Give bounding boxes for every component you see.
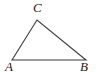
vertex-label-c: C: [33, 1, 42, 14]
vertex-label-b: B: [80, 60, 88, 73]
vertex-label-a: A: [5, 60, 13, 73]
triangle-outline: [12, 20, 86, 60]
triangle-figure: C A B: [0, 0, 96, 76]
